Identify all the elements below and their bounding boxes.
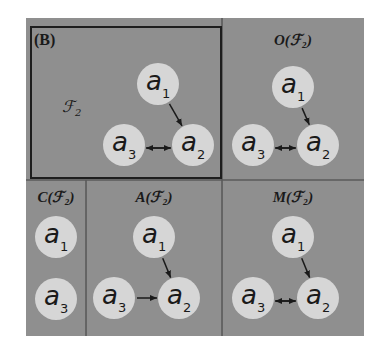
node-subscript: 3 <box>128 147 136 162</box>
node-label: a <box>102 280 118 310</box>
node-a2: a2 <box>172 124 214 166</box>
argumentation-figure: (B) ℱ2 a1a2a3O(ℱ₂)a1a2a3C(ℱ₂)a1a3A(ℱ₂)a1… <box>0 0 380 354</box>
node-label: a <box>281 69 297 99</box>
node-label: a <box>241 127 257 157</box>
node-a2: a2 <box>297 277 339 319</box>
node-a1: a1 <box>272 216 314 258</box>
node-subscript: 1 <box>297 89 305 104</box>
node-a1: a1 <box>133 216 175 258</box>
node-a3: a3 <box>232 124 274 166</box>
node-a1: a1 <box>137 63 179 105</box>
figure-label: (B) <box>34 31 55 49</box>
node-label: a <box>142 219 158 249</box>
node-subscript: 3 <box>60 301 68 316</box>
panel-title: M(ℱ₂) <box>272 189 314 206</box>
node-subscript: 3 <box>257 300 265 315</box>
node-subscript: 2 <box>183 300 191 315</box>
node-subscript: 1 <box>60 239 68 254</box>
node-subscript: 3 <box>118 300 126 315</box>
family-sub: 2 <box>74 107 81 118</box>
node-a2: a2 <box>297 124 339 166</box>
node-label: a <box>44 281 60 311</box>
node-a3: a3 <box>103 124 145 166</box>
node-subscript: 1 <box>297 239 305 254</box>
node-subscript: 2 <box>322 300 330 315</box>
node-a1: a1 <box>35 216 77 258</box>
node-label: a <box>241 280 257 310</box>
panel-title: O(ℱ₂) <box>274 32 312 49</box>
panel-title: A(ℱ₂) <box>134 189 172 206</box>
node-label: a <box>167 280 183 310</box>
node-label: a <box>44 219 60 249</box>
node-subscript: 1 <box>162 86 170 101</box>
panel-title: C(ℱ₂) <box>37 189 74 206</box>
node-label: a <box>112 127 128 157</box>
node-label: a <box>306 280 322 310</box>
node-a3: a3 <box>232 277 274 319</box>
node-a2: a2 <box>158 277 200 319</box>
node-a1: a1 <box>272 66 314 108</box>
node-label: a <box>146 66 162 96</box>
node-subscript: 2 <box>322 147 330 162</box>
node-label: a <box>306 127 322 157</box>
node-subscript: 2 <box>197 147 205 162</box>
node-label: a <box>281 219 297 249</box>
node-subscript: 3 <box>257 147 265 162</box>
node-label: a <box>181 127 197 157</box>
node-subscript: 1 <box>158 239 166 254</box>
node-a3: a3 <box>93 277 135 319</box>
figure-canvas: (B) ℱ2 a1a2a3O(ℱ₂)a1a2a3C(ℱ₂)a1a3A(ℱ₂)a1… <box>0 0 380 354</box>
node-a3: a3 <box>35 278 77 320</box>
